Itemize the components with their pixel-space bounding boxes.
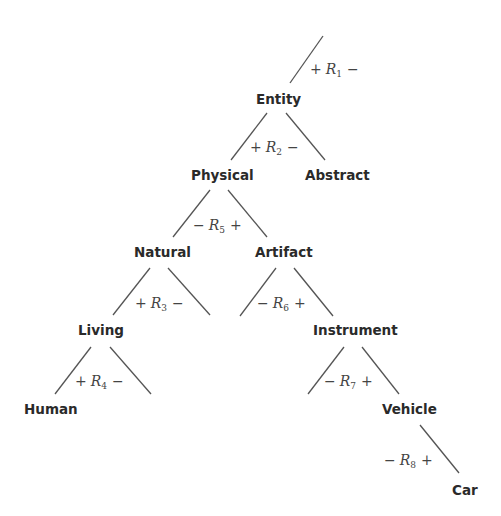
relation-r3: +R3− bbox=[135, 295, 184, 313]
node-living: Living bbox=[78, 322, 124, 338]
relation-r4: +R4− bbox=[75, 373, 124, 391]
relation-r6: −R6+ bbox=[257, 295, 306, 313]
relation-r1: +R1− bbox=[310, 61, 359, 79]
node-entity: Entity bbox=[256, 91, 301, 107]
node-physical: Physical bbox=[191, 167, 254, 183]
node-instrument: Instrument bbox=[313, 322, 398, 338]
relation-labels: +R1− +R2− −R5+ +R3− −R6+ +R4− −R7+ −R8+ bbox=[75, 61, 433, 470]
taxonomy-tree-diagram: +R1− +R2− −R5+ +R3− −R6+ +R4− −R7+ −R8+ bbox=[0, 0, 501, 516]
relation-r2: +R2− bbox=[250, 139, 299, 157]
node-vehicle: Vehicle bbox=[382, 401, 437, 417]
relation-r5: −R5+ bbox=[193, 217, 242, 235]
node-abstract: Abstract bbox=[305, 167, 370, 183]
relation-r8: −R8+ bbox=[384, 452, 433, 470]
relation-r7: −R7+ bbox=[324, 373, 373, 391]
node-car: Car bbox=[452, 482, 478, 498]
node-artifact: Artifact bbox=[255, 244, 313, 260]
node-human: Human bbox=[24, 401, 78, 417]
node-natural: Natural bbox=[134, 244, 191, 260]
